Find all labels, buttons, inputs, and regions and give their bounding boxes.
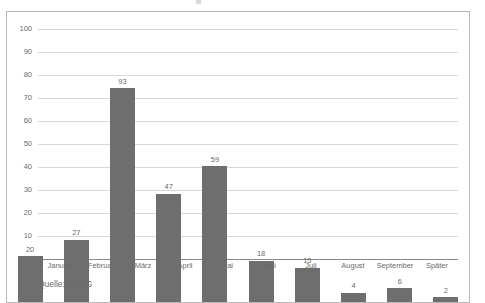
bar-value-label: 4: [351, 282, 355, 290]
x-axis-tick-label: September: [374, 262, 416, 270]
bar-value-label: 59: [211, 156, 219, 164]
bar-slot[interactable]: 2: [423, 12, 469, 302]
bar-slot[interactable]: 15: [284, 12, 330, 302]
bar-slot[interactable]: 20: [7, 12, 53, 302]
x-axis-tick-label: Januar: [38, 262, 80, 270]
x-axis-tick-label: Juli: [290, 262, 332, 270]
x-axis-tick-label: April: [164, 262, 206, 270]
chart-frame: 0102030405060708090100 20279347591815462…: [6, 11, 470, 303]
bar[interactable]: [156, 194, 181, 302]
bar-value-label: 93: [118, 78, 126, 86]
bar-value-label: 27: [72, 229, 80, 237]
bar[interactable]: [433, 297, 458, 302]
bar[interactable]: [202, 166, 227, 302]
x-axis-tick-label: Später: [416, 262, 458, 270]
bar-value-label: 2: [444, 287, 448, 295]
bar-slot[interactable]: 59: [192, 12, 238, 302]
bar-slot[interactable]: 47: [146, 12, 192, 302]
bar[interactable]: [387, 288, 412, 302]
bar-slot[interactable]: 6: [377, 12, 423, 302]
x-axis-tick-label: Mai: [206, 262, 248, 270]
crop-artifact: [196, 0, 201, 4]
bar-slot[interactable]: 18: [238, 12, 284, 302]
x-axis-tick-label: März: [122, 262, 164, 270]
x-axis-tick-label: August: [332, 262, 374, 270]
bar-value-label: 47: [165, 183, 173, 191]
bar-series: 20279347591815462: [7, 12, 469, 302]
bar-slot[interactable]: 93: [99, 12, 145, 302]
x-axis-tick-label: Februar: [80, 262, 122, 270]
bar-slot[interactable]: 4: [330, 12, 376, 302]
bar-slot[interactable]: 27: [53, 12, 99, 302]
x-axis-tick-label: Juni: [248, 262, 290, 270]
source-note: Quelle: KPMG: [38, 280, 92, 289]
bar-value-label: 18: [257, 250, 265, 258]
x-axis-labels: JanuarFebruarMärzAprilMaiJuniJuliAugustS…: [38, 262, 458, 270]
bar[interactable]: [64, 240, 89, 302]
bar[interactable]: [341, 293, 366, 302]
bar[interactable]: [295, 268, 320, 303]
bar-value-label: 6: [398, 278, 402, 286]
bar-value-label: 20: [26, 246, 34, 254]
